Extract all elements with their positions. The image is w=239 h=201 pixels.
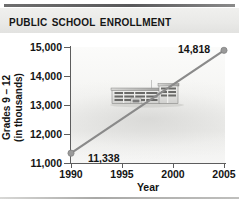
data-label-1990: 11,338 bbox=[88, 152, 120, 164]
y-tick-11000 bbox=[64, 163, 70, 164]
school-building-illustration bbox=[109, 80, 185, 108]
y-axis-line bbox=[70, 46, 71, 164]
data-label-2005: 14,818 bbox=[178, 43, 210, 55]
x-tick-label-1990: 1990 bbox=[49, 168, 93, 180]
y-axis-title-line2: (in thousands) bbox=[12, 48, 24, 168]
x-tick-label-2005: 2005 bbox=[202, 168, 239, 180]
y-tick-12000 bbox=[64, 134, 70, 135]
x-tick-label-1995: 1995 bbox=[100, 168, 144, 180]
plot-area bbox=[71, 47, 225, 163]
x-tick-label-2000: 2000 bbox=[151, 168, 195, 180]
y-tick-13000 bbox=[64, 105, 70, 106]
x-axis-title: Year bbox=[71, 181, 225, 193]
y-tick-15000 bbox=[64, 47, 70, 48]
bottom-rule bbox=[0, 197, 239, 199]
enrollment-chart-figure: Public School Enrollment bbox=[0, 0, 239, 201]
y-axis-title: Grades 9 – 12 (in thousands) bbox=[1, 48, 24, 168]
y-axis-title-line1: Grades 9 – 12 bbox=[1, 48, 13, 168]
y-tick-14000 bbox=[64, 76, 70, 77]
